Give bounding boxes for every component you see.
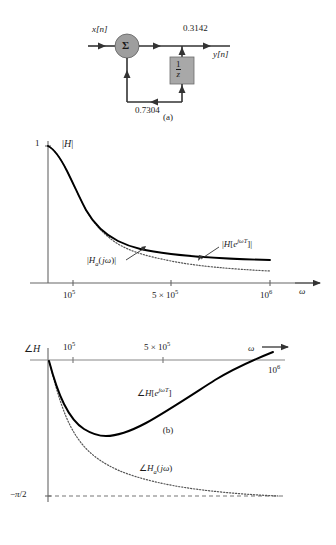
magnitude-x-tick-label-1e6: 106	[260, 289, 272, 300]
figure-container: x[n] y[n] Σ 0.3142 0.7304 1 z (a)	[0, 0, 336, 545]
delay-block-label: 1 z	[176, 60, 181, 80]
magnitude-analog-curve-label: |Ha( jω)|	[87, 256, 116, 267]
delay-numerator: 1	[176, 60, 181, 69]
block-diagram-panel: x[n] y[n] Σ 0.3142 0.7304 1 z (a)	[0, 0, 336, 125]
delay-block	[170, 57, 194, 84]
magnitude-y-axis-label: |H|	[62, 139, 73, 149]
phase-x-tick-label-5e5: 5 × 105	[144, 341, 170, 352]
feedback-arrow-icon-down	[179, 85, 186, 93]
phase-plot-svg	[0, 330, 336, 545]
forward-arrow-icon-1	[153, 43, 161, 50]
magnitude-x-tick-label-1e5: 105	[63, 289, 75, 300]
phase-x-tick-label-1e6: 106	[268, 364, 280, 375]
delay-output-arrow-icon	[179, 47, 186, 55]
phase-x-axis-label: ω	[248, 344, 254, 353]
output-signal-label: y[n]	[213, 50, 229, 59]
forward-gain-label: 0.3142	[183, 24, 208, 33]
magnitude-plot-panel: 1 |H| 105 5 × 105 106 ω |H[ejωT]| |Ha( j…	[0, 125, 336, 310]
input-arrow-icon	[98, 43, 106, 50]
magnitude-plot-svg	[0, 125, 336, 310]
phase-y-tick-label: −π/2	[10, 490, 27, 499]
forward-arrow-icon-2	[203, 43, 211, 50]
sum-node-symbol: Σ	[122, 40, 129, 51]
magnitude-y-tick-label: 1	[35, 139, 40, 148]
magnitude-analog-leader	[126, 249, 143, 260]
magnitude-x-axis-label: ω	[299, 287, 305, 296]
input-signal-label: x[n]	[92, 25, 108, 34]
phase-y-axis-label: ∠H	[24, 344, 40, 354]
feedback-arrow-icon-up	[124, 70, 131, 78]
magnitude-digital-curve-label: |H[ejωT]|	[222, 238, 252, 249]
phase-analog-curve-label: ∠Ha( jω)	[139, 464, 172, 475]
phase-x-tick-label-1e5: 105	[63, 341, 75, 352]
phase-plot-panel: ∠H 105 5 × 105 ω 106 −π/2 ∠H[ejωT] ∠Ha( …	[0, 330, 336, 545]
caption-a: (a)	[0, 112, 336, 122]
magnitude-x-tick-label-5e5: 5 × 105	[152, 289, 178, 300]
block-diagram-svg	[0, 0, 336, 125]
phase-digital-curve-label: ∠H[ejωT]	[137, 387, 172, 398]
delay-denominator: z	[176, 69, 181, 79]
